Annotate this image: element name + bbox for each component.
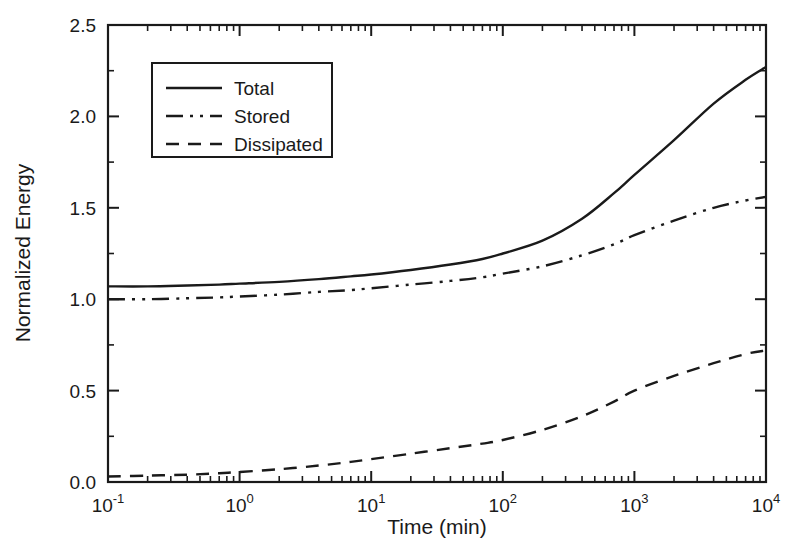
x-tick-label: 100	[225, 491, 253, 516]
legend-label-dissipated: Dissipated	[234, 134, 323, 155]
legend-label-stored: Stored	[234, 106, 290, 127]
y-tick-label: 2.5	[70, 15, 96, 36]
x-tick-label: 102	[489, 491, 517, 516]
y-tick-label: 1.5	[70, 198, 96, 219]
y-tick-label: 0.5	[70, 381, 96, 402]
y-axis-title: Normalized Energy	[11, 163, 34, 342]
x-tick-label: 10-1	[92, 491, 125, 516]
x-axis-title: Time (min)	[387, 515, 487, 538]
x-tick-label: 104	[752, 491, 780, 516]
y-tick-label: 2.0	[70, 106, 96, 127]
legend: TotalStoredDissipated	[152, 63, 332, 157]
x-tick-label: 103	[620, 491, 648, 516]
legend-label-total: Total	[234, 78, 274, 99]
chart-figure: 10-1100101102103104 0.00.51.01.52.02.5 T…	[0, 0, 794, 550]
x-tick-label: 101	[357, 491, 385, 516]
y-tick-label: 1.0	[70, 289, 96, 310]
x-axis-tick-labels: 10-1100101102103104	[92, 491, 781, 516]
y-axis-tick-labels: 0.00.51.01.52.02.5	[70, 15, 96, 493]
chart-canvas: 10-1100101102103104 0.00.51.01.52.02.5 T…	[0, 0, 794, 550]
series-line-dissipated	[108, 350, 766, 476]
y-tick-label: 0.0	[70, 472, 96, 493]
